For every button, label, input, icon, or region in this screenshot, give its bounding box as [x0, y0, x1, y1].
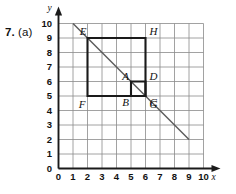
vertex-label-B: B [122, 96, 129, 108]
svg-text:5: 5 [47, 90, 53, 101]
vertex-label-A: A [121, 70, 129, 82]
vertex-label-F: F [78, 98, 86, 110]
svg-text:4: 4 [47, 105, 53, 116]
svg-text:1: 1 [47, 148, 53, 159]
svg-text:x: x [210, 172, 216, 182]
vertex-label-E: E [79, 25, 87, 37]
coordinate-grid-figure: 012345678910012345678910 xy EHFGADBC [0, 0, 236, 194]
vertex-label-C: C [150, 96, 158, 108]
svg-text:5: 5 [128, 171, 134, 182]
svg-text:8: 8 [172, 171, 177, 182]
svg-text:0: 0 [56, 171, 61, 182]
svg-text:4: 4 [114, 171, 120, 182]
svg-text:y: y [46, 3, 52, 13]
svg-text:1: 1 [70, 171, 76, 182]
svg-text:7: 7 [157, 171, 162, 182]
svg-text:6: 6 [47, 76, 52, 87]
svg-text:6: 6 [143, 171, 148, 182]
svg-text:10: 10 [41, 18, 52, 29]
vertex-label-D: D [149, 70, 158, 82]
svg-text:0: 0 [47, 163, 52, 174]
svg-text:2: 2 [85, 171, 90, 182]
svg-text:3: 3 [99, 171, 104, 182]
svg-text:9: 9 [47, 32, 52, 43]
svg-text:10: 10 [198, 171, 209, 182]
svg-text:7: 7 [47, 61, 52, 72]
svg-text:2: 2 [47, 134, 52, 145]
svg-text:8: 8 [47, 47, 52, 58]
svg-text:9: 9 [186, 171, 191, 182]
vertex-label-H: H [149, 25, 159, 37]
svg-text:3: 3 [47, 119, 52, 130]
